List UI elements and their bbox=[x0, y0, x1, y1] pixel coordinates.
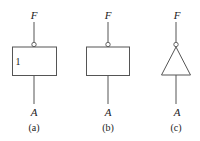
caption-a: (a) bbox=[28, 122, 39, 134]
output-label-a: F bbox=[30, 9, 38, 21]
not-gate-symbols: F 1 A (a) F A (b) F A (c) bbox=[0, 0, 200, 141]
output-label-b: F bbox=[104, 9, 112, 21]
gate-box-b bbox=[87, 47, 130, 76]
input-label-b: A bbox=[104, 106, 112, 118]
caption-b: (b) bbox=[102, 122, 114, 134]
input-label-a: A bbox=[30, 106, 38, 118]
not-gate-a: F 1 A (a) bbox=[13, 9, 57, 134]
buffer-triangle-c bbox=[162, 47, 191, 75]
output-label-c: F bbox=[173, 9, 181, 21]
caption-c: (c) bbox=[170, 122, 181, 134]
inversion-bubble-b bbox=[106, 42, 110, 46]
gate-function-label: 1 bbox=[16, 56, 21, 67]
inversion-bubble-a bbox=[32, 42, 36, 46]
input-label-c: A bbox=[173, 106, 181, 118]
not-gate-c: F A (c) bbox=[162, 9, 191, 134]
not-gate-b: F A (b) bbox=[87, 9, 130, 134]
